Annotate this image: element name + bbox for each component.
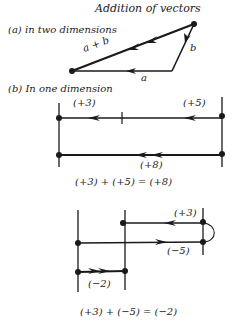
ex2-second-label: (−5) [167, 245, 190, 256]
ex1-result-label: (+8) [140, 159, 163, 170]
ex2-first-label: (+3) [174, 207, 197, 218]
tail-point [69, 68, 75, 74]
head-point [191, 21, 197, 27]
ex1-equation: (+3) + (+5) = (+8) [75, 176, 172, 187]
ex1-second-label: (+5) [183, 97, 206, 108]
turnaround-curve [203, 223, 214, 242]
vector-b-label: b [190, 42, 196, 53]
ex2-equation: (+3) + (−5) = (−2) [80, 306, 177, 317]
part-b-label: (b) In one dimension [8, 83, 113, 94]
vector-diagram [0, 0, 237, 329]
ex2-result-label: (−2) [88, 278, 111, 289]
diagram-title: Addition of vectors [95, 2, 201, 15]
part-a-label: (a) in two dimensions [8, 24, 117, 35]
vector-a-label: a [141, 72, 147, 83]
minus5-line [78, 242, 203, 243]
ex1-first-label: (+3) [73, 97, 96, 108]
